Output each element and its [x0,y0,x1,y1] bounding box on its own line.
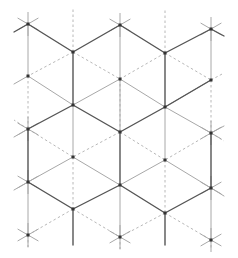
vertex-dot [210,187,213,190]
vertex-dot [72,104,75,107]
vertex-dot [119,184,122,187]
vertex-dot [119,24,122,27]
vertex-dot [27,75,30,78]
vertex-dot [210,132,213,135]
thick-edge [28,182,73,209]
thick-edge [73,25,120,52]
dashed-edge [211,73,224,80]
dashed-edge [28,52,73,76]
vertex-dot [164,52,167,55]
thick-edge [120,185,165,213]
vertex-dot [72,156,75,159]
thick-edge [120,107,165,132]
thick-edge [165,80,211,107]
thin-edge [73,79,120,105]
thin-edge [120,79,165,107]
vertex-dot [210,28,213,31]
dashed-edge [120,53,165,79]
thick-edge [165,29,211,53]
vertex-dot [164,212,167,215]
vertex-dot [119,78,122,81]
vertex-dot [164,159,167,162]
thick-edge [73,105,120,132]
vertex-dot [210,239,213,242]
dashed-edge [73,132,120,157]
dashed-edge [165,53,211,80]
thick-edge [14,24,28,32]
cube-tiling-diagram [0,0,238,258]
dashed-edge [73,52,120,79]
thick-edge [28,24,73,52]
vertex-dot [72,51,75,54]
vertex-dot [27,181,30,184]
vertex-dot [210,79,213,82]
vertex-dot [164,106,167,109]
thick-edges [14,24,224,245]
vertex-dot [119,236,122,239]
thick-edge [73,185,120,209]
thick-edge [28,105,73,129]
vertex-dot [27,128,30,131]
vertex-dot [119,131,122,134]
dashed-edges [14,8,224,250]
thin-edge [120,160,165,185]
vertex-dot [27,23,30,26]
thin-edge [28,76,73,105]
dashed-edge [120,132,165,160]
thin-edge [73,157,120,185]
vertex-dot [27,234,30,237]
thick-edge [120,25,165,53]
vertex-dot [72,208,75,211]
thin-edge [14,76,28,84]
thick-edge [165,188,211,213]
thick-edge [211,29,224,36]
